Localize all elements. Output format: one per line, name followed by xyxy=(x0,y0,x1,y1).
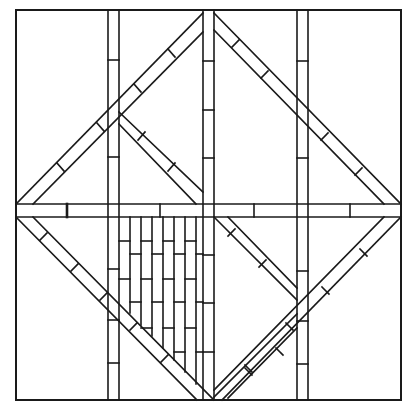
vertical-strips xyxy=(108,10,308,400)
inner-upper-diagonal xyxy=(119,112,203,204)
pattern-drawing xyxy=(0,0,416,410)
outer-frame xyxy=(16,10,401,400)
brick-infill xyxy=(119,217,203,384)
horizontal-band xyxy=(16,204,401,217)
diamond-upper-left xyxy=(16,13,203,204)
diagram-canvas xyxy=(0,0,416,410)
inner-lower-diagonal xyxy=(214,217,297,398)
